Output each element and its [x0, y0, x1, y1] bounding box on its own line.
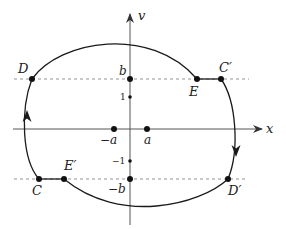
point-a	[144, 126, 150, 132]
point-C	[36, 176, 42, 182]
tick-minus-1	[128, 159, 132, 163]
axis-label-v: v	[138, 8, 146, 23]
point-E	[194, 76, 200, 82]
curve-top-arc	[32, 44, 197, 79]
label-C: C	[32, 183, 42, 198]
point-D-prime	[225, 176, 231, 182]
point-minus-a	[111, 126, 117, 132]
label-E: E	[188, 84, 199, 99]
point-minus-b	[127, 176, 133, 182]
label-minus-1: −1	[112, 156, 125, 166]
point-D	[29, 76, 35, 82]
label-minus-a: −a	[100, 133, 117, 147]
axis-label-x: x	[266, 121, 274, 136]
point-E-prime	[61, 176, 67, 182]
point-b	[127, 76, 133, 82]
label-E-prime: E′	[63, 158, 76, 173]
label-D: D	[17, 61, 29, 76]
point-C-prime	[218, 76, 224, 82]
label-minus-b: −b	[108, 182, 126, 196]
label-b: b	[119, 64, 127, 78]
phase-diagram: v x D b 1 E C′ −a a −1 −b C E′ D′	[0, 0, 286, 229]
label-C-prime: C′	[219, 60, 232, 75]
tick-1	[128, 95, 132, 99]
direction-arrow-down-icon	[232, 145, 241, 157]
label-a: a	[144, 133, 151, 147]
curve-bottom-arc	[64, 179, 228, 207]
label-1: 1	[120, 92, 126, 102]
label-D-prime: D′	[227, 183, 241, 198]
